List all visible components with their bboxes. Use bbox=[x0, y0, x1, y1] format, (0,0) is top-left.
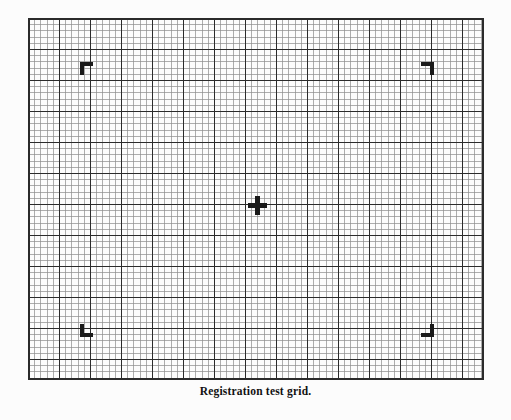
figure-page: Registration test grid. bbox=[0, 0, 511, 420]
bracket-horizontal-arm bbox=[421, 62, 434, 66]
bracket-horizontal-arm bbox=[80, 333, 93, 337]
figure-caption: Registration test grid. bbox=[0, 385, 511, 397]
bracket-horizontal-arm bbox=[421, 333, 434, 337]
registration-test-figure: Registration test grid. bbox=[0, 0, 511, 420]
bracket-horizontal-arm bbox=[80, 62, 93, 66]
crosshair-vertical-arm bbox=[255, 196, 260, 215]
registration-grid bbox=[28, 18, 484, 380]
grid-canvas bbox=[28, 18, 484, 380]
